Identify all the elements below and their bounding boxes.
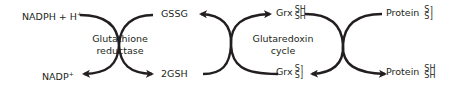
label-protein-reduced: ProteinSHSH bbox=[386, 65, 435, 79]
enzyme-left-line1: Glutathione bbox=[86, 33, 154, 45]
label-grx-oxidized: GrxS⌉S⌋ bbox=[276, 65, 303, 79]
thiol-bottom: SH bbox=[424, 72, 435, 79]
label-nadph-text: NADPH + H bbox=[22, 11, 77, 22]
label-grx-oxidized-prefix: Grx bbox=[276, 66, 293, 77]
disulfide-bottom: S⌋ bbox=[295, 72, 303, 79]
label-protein-oxidized: ProteinS⌉S⌋ bbox=[386, 6, 433, 20]
label-grx-reduced-prefix: Grx bbox=[276, 7, 293, 18]
label-nadph-charge: + bbox=[77, 10, 82, 17]
enzyme-glutaredoxin-cycle: Glutaredoxin cycle bbox=[244, 33, 322, 57]
label-nadp-text: NADP bbox=[42, 71, 69, 82]
arrow-protein-ss-to-protein-sh bbox=[343, 14, 385, 74]
label-gssg: GSSG bbox=[161, 8, 188, 19]
label-protein-reduced-prefix: Protein bbox=[386, 66, 419, 77]
enzyme-left-line2: reductase bbox=[86, 45, 154, 57]
thiol-bottom: SH bbox=[295, 13, 306, 20]
thiol-pair-stack: SHSH bbox=[424, 65, 435, 79]
label-protein-oxidized-prefix: Protein bbox=[386, 7, 419, 18]
arrow-2gsh-to-gssg bbox=[201, 14, 231, 74]
label-nadp-charge: + bbox=[69, 70, 74, 77]
disulfide-stack: S⌉S⌋ bbox=[424, 6, 432, 20]
disulfide-stack: S⌉S⌋ bbox=[295, 65, 303, 79]
label-2gsh: 2GSH bbox=[161, 68, 188, 79]
enzyme-glutathione-reductase: Glutathione reductase bbox=[86, 33, 154, 57]
thiol-pair-stack: SHSH bbox=[295, 6, 306, 20]
label-grx-reduced: GrxSHSH bbox=[276, 6, 306, 20]
disulfide-bottom: S⌋ bbox=[424, 13, 432, 20]
redox-cycle-diagram: NADPH + H+ NADP+ Glutathione reductase G… bbox=[0, 0, 456, 90]
label-nadph: NADPH + H+ bbox=[22, 8, 82, 22]
enzyme-middle-line2: cycle bbox=[244, 45, 322, 57]
label-nadp: NADP+ bbox=[42, 68, 74, 82]
enzyme-middle-line1: Glutaredoxin bbox=[244, 33, 322, 45]
